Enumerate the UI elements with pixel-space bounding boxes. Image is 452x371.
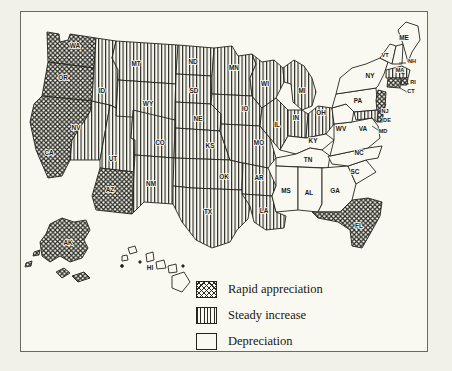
state-HI-island-3 [146,252,154,262]
legend-label-steady-increase: Steady increase [228,308,306,323]
state-label-HI: HI [147,264,154,271]
state-label-SC: SC [351,168,360,175]
state-label-MA: MA [396,67,405,73]
state-AK-aleutians-2 [25,261,32,267]
state-label-MS: MS [281,187,291,194]
state-label-DE: DE [383,117,391,123]
state-label-GA: GA [330,187,340,194]
state-label-TN: TN [304,156,313,163]
state-label-MO: MO [254,139,264,146]
legend-label-depreciation: Depreciation [228,334,293,349]
state-MI [283,60,316,110]
state-CT [387,78,401,88]
state-label-AK: AK [63,239,73,246]
state-label-IL: IL [274,121,280,128]
legend-item-depreciation: Depreciation [196,328,323,354]
legend-label-rapid-appreciation: Rapid appreciation [228,282,323,297]
legend-swatch-rapid-appreciation [196,281,217,298]
state-label-AZ: AZ [106,186,115,193]
state-HI-island-2 [122,255,128,261]
state-label-UT: UT [109,155,118,162]
state-OK [173,158,243,190]
state-HI-islet-b [139,261,141,263]
state-label-CA: CA [44,149,54,156]
state-label-ND: ND [188,58,198,65]
leader-CT [400,88,407,92]
state-NY [336,58,388,94]
state-label-WA: WA [70,42,81,49]
legend-item-rapid: Rapid appreciation [196,276,323,302]
legend-swatch-depreciation [196,333,217,350]
state-label-NV: NV [72,124,82,131]
state-label-MD: MD [379,128,388,134]
state-HI-island-1 [128,246,137,254]
state-label-OK: OK [219,173,229,180]
state-AK-aleutians-1 [33,250,40,256]
state-label-PA: PA [354,97,363,104]
state-label-VT: VT [381,52,389,58]
state-label-IO: IO [242,105,249,112]
state-label-NH: NH [408,58,416,64]
state-label-AR: AR [254,174,264,181]
state-label-CT: CT [407,88,415,94]
state-MN [212,46,256,96]
state-HI-islet-c [182,265,184,267]
state-label-NE: NE [194,115,204,122]
state-OR [42,62,94,101]
state-label-NY: NY [366,72,376,79]
state-label-FL: FL [355,222,363,229]
state-label-KS: KS [206,142,216,149]
state-label-WV: WV [336,125,347,132]
map-figure: WAORCANVIDUTAZMTWYCONMNDSDNEKSOKTXMNIOMO… [0,0,452,371]
state-label-ME: ME [399,34,409,41]
state-label-MI: MI [298,87,305,94]
state-label-ID: ID [99,87,106,94]
state-label-SD: SD [190,87,199,94]
state-label-NJ: NJ [381,108,388,114]
state-AK-aleutians-4 [72,272,90,282]
legend-item-steady: Steady increase [196,302,323,328]
state-HI-island-5 [168,264,177,273]
state-HI-island-6 [172,272,190,292]
state-label-KY: KY [309,137,319,144]
state-label-OH: OH [316,109,326,116]
state-label-VA: VA [359,125,368,132]
state-label-IN: IN [293,114,300,121]
state-RI [401,78,408,85]
state-HI-islet-a [121,265,124,268]
state-label-AL: AL [305,189,314,196]
state-label-TX: TX [204,208,213,215]
state-label-LA: LA [260,207,269,214]
state-label-MT: MT [131,60,140,67]
state-label-NC: NC [354,149,364,156]
state-TX [173,186,250,248]
state-label-NM: NM [146,180,156,187]
map-legend: Rapid appreciation Steady increase Depre… [196,276,323,354]
state-AK-aleutians-3 [56,268,70,278]
state-MT [112,41,178,84]
state-label-RI: RI [410,79,416,85]
state-label-OR: OR [58,74,68,81]
state-label-MN: MN [229,64,239,71]
state-label-WI: WI [261,80,269,87]
state-label-CO: CO [155,139,165,146]
state-label-WY: WY [143,100,154,107]
state-HI-island-4 [156,260,166,269]
legend-swatch-steady-increase [196,307,217,324]
